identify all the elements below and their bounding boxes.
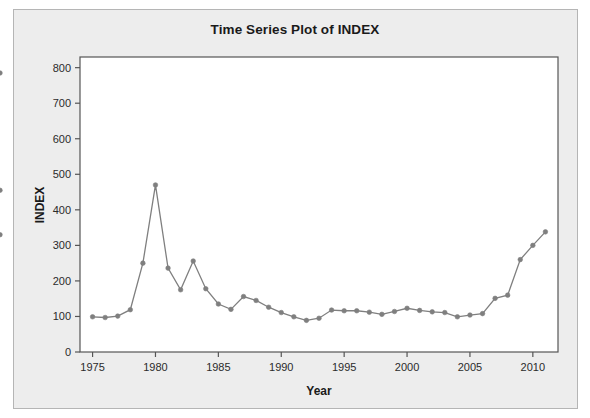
x-tick-label: 2005 [458,361,482,373]
data-point [480,311,485,316]
data-point [405,306,410,311]
screenshot-root: Time Series Plot of INDEX 01002003004005… [0,0,590,418]
time-series-chart: 0100200300400500600700800 19751980198519… [0,0,590,418]
data-point [317,316,322,321]
x-tick-label: 1990 [269,361,293,373]
data-point [115,314,120,319]
data-point [518,257,523,262]
data-point [128,307,133,312]
data-point [505,293,510,298]
data-point [141,261,146,266]
data-point [216,302,221,307]
data-point [266,305,271,310]
data-point [342,308,347,313]
data-point [430,310,435,315]
data-point [229,307,234,312]
data-point [392,309,397,314]
data-point [367,310,372,315]
data-point [493,296,498,301]
data-point [0,232,2,237]
data-point [254,298,259,303]
x-axis-label: Year [306,384,332,398]
data-point [178,288,183,293]
data-point [191,259,196,264]
y-tick-label: 0 [65,346,71,358]
data-point [203,286,208,291]
data-point [304,318,309,323]
data-point [90,315,95,320]
data-point [153,183,158,188]
x-tick-label: 2010 [521,361,545,373]
x-tick-label: 1985 [206,361,230,373]
y-axis-label: INDEX [33,187,47,224]
data-point [279,310,284,315]
data-point [442,310,447,315]
x-tick-label: 1980 [143,361,167,373]
data-point [380,312,385,317]
x-tick-label: 1995 [332,361,356,373]
x-axis-ticks: 19751980198519901995200020052010 [80,352,545,373]
y-tick-label: 500 [53,168,71,180]
data-point [0,71,2,76]
data-point [0,188,2,193]
y-tick-label: 100 [53,310,71,322]
data-point [468,313,473,318]
data-point [166,266,171,271]
data-point [455,315,460,320]
x-tick-label: 2000 [395,361,419,373]
x-tick-label: 1975 [80,361,104,373]
data-point [543,230,548,235]
data-point [531,243,536,248]
data-point [103,315,108,320]
data-point [354,308,359,313]
y-tick-label: 300 [53,239,71,251]
data-point [329,308,334,313]
y-tick-label: 600 [53,133,71,145]
data-point [417,308,422,313]
data-point [292,315,297,320]
y-tick-label: 400 [53,204,71,216]
data-point [241,294,246,299]
y-tick-label: 800 [53,62,71,74]
y-tick-label: 700 [53,97,71,109]
y-tick-label: 200 [53,275,71,287]
y-axis-ticks: 0100200300400500600700800 [53,62,80,358]
